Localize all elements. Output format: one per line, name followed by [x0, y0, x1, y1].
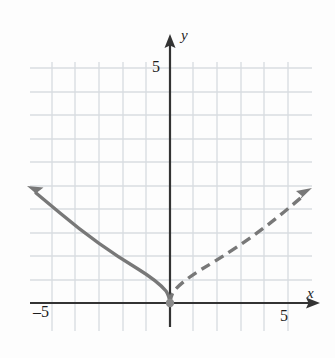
y-tick-label-5: 5 [152, 59, 160, 75]
x-tick-label-negative-5: –5 [33, 304, 49, 320]
plot-canvas [0, 0, 335, 358]
graph-figure: y x 5 –5 5 [0, 0, 335, 358]
x-axis-label: x [307, 286, 314, 301]
x-tick-label-5: 5 [280, 308, 288, 324]
y-axis-label: y [181, 28, 188, 43]
origin-dot [166, 299, 174, 307]
